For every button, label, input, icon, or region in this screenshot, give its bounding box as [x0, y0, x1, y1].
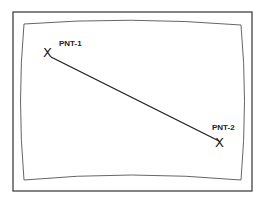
- outer-frame: [13, 12, 252, 191]
- pnt-1-x-marker-icon: X: [43, 45, 52, 60]
- screen-outline: [21, 20, 245, 180]
- pnt-2-label: PNT-2: [212, 123, 235, 132]
- crt-diagram: X PNT-1 X PNT-2: [0, 0, 264, 200]
- connecting-line: [51, 57, 219, 141]
- pnt-2-x-marker-icon: X: [215, 135, 224, 150]
- pnt-1-label: PNT-1: [59, 39, 82, 48]
